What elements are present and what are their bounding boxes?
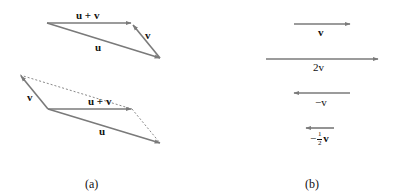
- label-neg-half-v: −12v: [310, 131, 329, 147]
- frac-numerator: 1: [318, 131, 322, 138]
- vector-v-arrow: [21, 76, 48, 109]
- dotted-edge-right: [132, 109, 160, 143]
- neg-sign: −: [310, 132, 316, 144]
- label-2v: 2v: [313, 62, 324, 73]
- label-u-bottom: u: [99, 126, 105, 137]
- label-neg-v: −v: [315, 97, 327, 108]
- dotted-edge-top: [20, 75, 132, 109]
- caption-b: (b): [305, 178, 319, 190]
- label-v: v: [318, 27, 324, 38]
- label-v-bottom: v: [27, 92, 33, 103]
- vector-diagram: [0, 0, 394, 196]
- triangle-rule: [47, 23, 160, 58]
- scalar-multiples: [266, 24, 378, 128]
- vector-symbol: v: [323, 132, 329, 144]
- frac-denominator: 2: [318, 140, 322, 147]
- fraction-half: 12: [317, 131, 322, 147]
- caption-a: (a): [85, 178, 98, 190]
- label-2v-text: 2v: [313, 61, 324, 73]
- parallelogram-rule: [20, 75, 160, 143]
- label-sum-top: u + v: [76, 10, 99, 21]
- vector-u-arrow: [47, 23, 160, 58]
- label-v-top: v: [145, 30, 151, 41]
- label-sum-bottom: u + v: [88, 96, 111, 107]
- label-u-top: u: [95, 42, 101, 53]
